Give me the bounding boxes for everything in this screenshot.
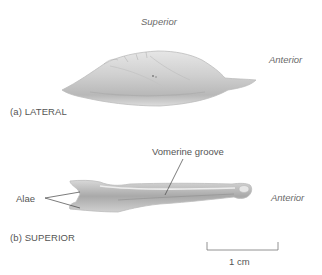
orientation-anterior-label-a: Anterior [269,54,302,65]
orientation-superior-label: Superior [141,16,177,27]
panel-b-caption: (b) SUPERIOR [10,232,75,243]
vomerine-groove-label: Vomerine groove [152,146,224,157]
orientation-anterior-label-b: Anterior [271,192,304,203]
alae-leader-upper [45,192,80,198]
panel-a-caption: (a) LATERAL [10,106,67,117]
superior-bone-drawing [69,180,251,212]
scale-bar [207,242,278,250]
scale-bar-label: 1 cm [229,256,250,267]
lateral-bone-drawing [62,51,256,106]
alae-label: Alae [16,193,35,204]
